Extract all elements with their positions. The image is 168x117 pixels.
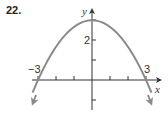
x-tick-label-neg3: −3 xyxy=(28,63,41,75)
parabola-chart: −3 3 2 y x xyxy=(0,0,168,117)
x-tick-label-3: 3 xyxy=(144,63,150,75)
y-axis-label: y xyxy=(81,5,87,17)
y-tick-label-2: 2 xyxy=(84,34,90,46)
y-ticks xyxy=(92,20,96,100)
x-axis-label: x xyxy=(154,83,160,95)
